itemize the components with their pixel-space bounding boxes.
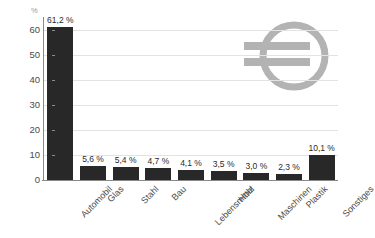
bar[interactable] [80,166,106,180]
bar[interactable] [211,171,237,180]
y-tick-label: 50 [16,50,40,60]
bar[interactable] [178,170,204,180]
bar-group[interactable]: 2,3 % [276,18,302,180]
y-tick-label: 30 [16,100,40,110]
bar-value-label: 3,5 % [213,159,235,169]
y-axis-tick-labels: 0102030405060 [12,0,40,238]
bar-group[interactable]: 4,1 % [178,18,204,180]
plot-area: 61,2 %5,6 %5,4 %4,7 %4,1 %3,5 %3,0 %2,3 … [44,18,338,180]
y-tick-mark [52,55,55,56]
bar-value-label: 4,1 % [180,158,202,168]
bar-value-label: 3,0 % [245,161,267,171]
bar[interactable] [145,168,171,180]
bar-group[interactable]: 10,1 % [309,18,335,180]
x-axis-category-label: Stahl [139,184,161,206]
y-tick-label: 0 [16,175,40,185]
y-tick-mark [52,180,55,181]
bar-group[interactable]: 5,4 % [113,18,139,180]
bar[interactable] [243,173,269,180]
x-axis-category-text: Bau [170,184,188,202]
y-tick-mark [52,155,55,156]
x-axis-category-text: Stahl [139,184,161,206]
bar-value-label: 5,6 % [82,154,104,164]
x-axis-line [42,180,338,181]
x-axis-category-text: Sonstiges [340,184,375,219]
y-tick-mark [52,30,55,31]
bar[interactable] [113,167,139,180]
bar-group[interactable]: 4,7 % [145,18,171,180]
y-tick-label: 10 [16,150,40,160]
y-axis-line [43,17,44,181]
y-tick-label: 60 [16,25,40,35]
y-tick-mark [52,130,55,131]
bar-value-label: 61,2 % [47,15,73,25]
x-axis-category-label: Sonstiges [340,184,375,219]
bar-group[interactable]: 3,0 % [243,18,269,180]
bar[interactable] [309,155,335,180]
bar-group[interactable]: 5,6 % [80,18,106,180]
bar-value-label: 10,1 % [308,143,334,153]
y-tick-mark [52,80,55,81]
x-axis-category-label: Bau [170,184,188,202]
y-tick-label: 20 [16,125,40,135]
bar[interactable] [47,27,73,180]
bar-value-label: 2,3 % [278,162,300,172]
y-tick-mark [52,105,55,106]
bar-value-label: 4,7 % [147,156,169,166]
y-tick-label: 40 [16,75,40,85]
bar-value-label: 5,4 % [115,155,137,165]
bar-group[interactable]: 3,5 % [211,18,237,180]
